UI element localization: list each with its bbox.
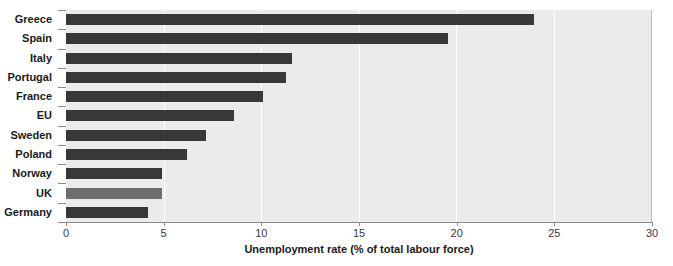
bar-row <box>66 183 651 202</box>
category-tick <box>58 10 66 11</box>
category-tick <box>58 164 66 165</box>
category-tick <box>58 126 66 127</box>
category-label-norway: Norway <box>0 164 58 183</box>
category-tick <box>58 203 66 204</box>
category-label-greece: Greece <box>0 10 58 29</box>
category-label-uk: UK <box>0 183 58 202</box>
value-tick <box>652 222 653 226</box>
value-tick-label: 30 <box>646 228 658 239</box>
category-label-eu: EU <box>0 106 58 125</box>
value-tick-label: 5 <box>161 228 167 239</box>
bar-sweden <box>66 130 206 141</box>
bar-row <box>66 68 651 87</box>
bar-uk <box>66 188 162 199</box>
value-tick-label: 20 <box>451 228 463 239</box>
bar-row <box>66 164 651 183</box>
category-label-sweden: Sweden <box>0 126 58 145</box>
bar-row <box>66 203 651 222</box>
category-tick <box>58 222 66 223</box>
value-axis-title: Unemployment rate (% of total labour for… <box>66 244 652 255</box>
bar-row <box>66 29 651 48</box>
bar-chart: GreeceSpainItalyPortugalFranceEUSwedenPo… <box>0 0 673 266</box>
value-tick <box>261 222 262 226</box>
category-label-germany: Germany <box>0 203 58 222</box>
category-tick <box>58 106 66 107</box>
category-axis: GreeceSpainItalyPortugalFranceEUSwedenPo… <box>0 10 58 222</box>
bar-germany <box>66 207 148 218</box>
bar-greece <box>66 14 534 25</box>
bar-poland <box>66 149 187 160</box>
category-label-france: France <box>0 87 58 106</box>
bar-row <box>66 49 651 68</box>
bar-series <box>66 10 651 222</box>
category-tick <box>58 87 66 88</box>
bar-row <box>66 106 651 125</box>
category-tick <box>58 49 66 50</box>
bar-france <box>66 91 263 102</box>
category-tick <box>58 68 66 69</box>
bar-eu <box>66 110 234 121</box>
bar-portugal <box>66 72 286 83</box>
bar-spain <box>66 33 448 44</box>
category-tick-marks <box>58 10 66 222</box>
category-tick <box>58 183 66 184</box>
bar-italy <box>66 53 292 64</box>
category-tick <box>58 145 66 146</box>
value-tick <box>457 222 458 226</box>
value-tick <box>554 222 555 226</box>
bar-row <box>66 145 651 164</box>
plot-area <box>66 10 652 222</box>
bar-row <box>66 126 651 145</box>
category-label-spain: Spain <box>0 29 58 48</box>
value-tick-label: 25 <box>548 228 560 239</box>
bar-row <box>66 87 651 106</box>
category-tick <box>58 29 66 30</box>
value-tick-label: 0 <box>63 228 69 239</box>
bar-norway <box>66 168 162 179</box>
value-tick <box>66 222 67 226</box>
value-tick-label: 15 <box>353 228 365 239</box>
category-label-poland: Poland <box>0 145 58 164</box>
category-label-portugal: Portugal <box>0 68 58 87</box>
category-label-italy: Italy <box>0 49 58 68</box>
value-tick-label: 10 <box>255 228 267 239</box>
value-tick <box>359 222 360 226</box>
value-axis-tick-labels: 051015202530 <box>66 228 652 242</box>
bar-row <box>66 10 651 29</box>
value-tick <box>164 222 165 226</box>
